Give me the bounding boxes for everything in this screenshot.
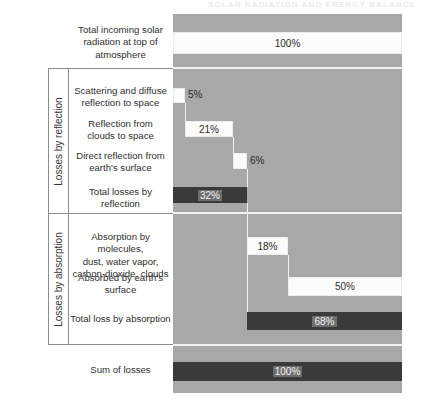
bar-total-absorption-value: 68% bbox=[312, 316, 336, 327]
row-label-surface-reflect: Direct reflection from earth's surface bbox=[69, 150, 172, 175]
chart-page: SOLAR RADIATION AND ENERGY BALANCE Losse… bbox=[0, 0, 422, 409]
group-caption-reflection: Losses by reflection bbox=[48, 69, 68, 213]
row-label-total-reflection: Total losses by reflection bbox=[69, 186, 172, 211]
bar-absorbed-surface-value: 50% bbox=[335, 281, 355, 292]
panel-rule-3 bbox=[173, 344, 402, 346]
bar-total-reflection: 32% bbox=[173, 187, 247, 203]
bar-scattering-value: 5% bbox=[188, 89, 202, 100]
row-label-absorption-atm-line1: Absorption by molecules, bbox=[69, 231, 172, 256]
group-caption-reflection-text: Losses by reflection bbox=[53, 97, 64, 185]
bar-incoming-value: 100% bbox=[275, 38, 301, 49]
row-label-absorbed-surface: Absorbed by earth's surface bbox=[69, 272, 172, 297]
row-label-scattering-line2: reflection to space bbox=[69, 97, 172, 109]
riser-surface-to-total-reflection bbox=[247, 169, 248, 187]
panel-rule-2 bbox=[173, 212, 402, 214]
row-label-surface-reflect-line1: Direct reflection from bbox=[69, 150, 172, 162]
row-label-clouds-line1: Reflection from bbox=[69, 118, 172, 130]
row-label-total-reflection-line1: Total losses by bbox=[69, 186, 172, 198]
bar-total-reflection-value: 32% bbox=[198, 190, 222, 201]
header-ghost-text: SOLAR RADIATION AND ENERGY BALANCE bbox=[208, 0, 416, 9]
bar-clouds: 21% bbox=[185, 121, 233, 137]
row-label-absorbed-surface-line1: Absorbed by earth's bbox=[69, 272, 172, 284]
row-label-incoming-line1: Total incoming solar bbox=[69, 24, 172, 36]
bar-total-absorption: 68% bbox=[247, 312, 402, 330]
row-label-absorbed-surface-line2: surface bbox=[69, 284, 172, 296]
row-label-surface-reflect-line2: earth's surface bbox=[69, 162, 172, 174]
row-label-sum-line1: Sum of losses bbox=[69, 364, 172, 376]
bar-absorbed-surface: 50% bbox=[288, 277, 402, 296]
row-label-incoming: Total incoming solar radiation at top of… bbox=[69, 24, 172, 61]
bar-incoming: 100% bbox=[173, 32, 402, 54]
row-label-total-absorption-line1: Total loss by absorption bbox=[69, 313, 172, 325]
row-label-clouds: Reflection from clouds to space bbox=[69, 118, 172, 143]
row-label-scattering: Scattering and diffuse reflection to spa… bbox=[69, 85, 172, 110]
row-label-clouds-line2: clouds to space bbox=[69, 130, 172, 142]
bar-surface-reflect-value: 6% bbox=[250, 155, 264, 166]
bar-sum: 100% bbox=[173, 362, 402, 381]
bar-sum-value: 100% bbox=[273, 366, 303, 377]
riser-atm-to-surface bbox=[288, 255, 289, 277]
bar-absorption-atm-value: 18% bbox=[257, 241, 277, 252]
bar-clouds-value: 21% bbox=[199, 124, 219, 135]
group-caption-absorption: Losses by absorption bbox=[48, 214, 68, 344]
row-label-total-absorption: Total loss by absorption bbox=[69, 313, 172, 325]
row-label-incoming-line3: atmosphere bbox=[69, 49, 172, 61]
bar-surface-reflect bbox=[233, 153, 247, 169]
bar-scattering bbox=[173, 88, 185, 103]
row-label-sum: Sum of losses bbox=[69, 364, 172, 376]
plot-panel bbox=[173, 14, 402, 393]
row-label-total-reflection-line2: reflection bbox=[69, 198, 172, 210]
panel-rule-1 bbox=[173, 67, 402, 69]
group-caption-absorption-text: Losses by absorption bbox=[53, 232, 64, 327]
row-label-scattering-line1: Scattering and diffuse bbox=[69, 85, 172, 97]
riser-scattering-to-clouds bbox=[185, 103, 186, 121]
bar-absorption-atm: 18% bbox=[247, 237, 288, 255]
riser-reflection-to-absorption bbox=[247, 203, 248, 316]
row-label-incoming-line2: radiation at top of bbox=[69, 36, 172, 48]
row-label-absorption-atm-line2: dust, water vapor, bbox=[69, 256, 172, 268]
